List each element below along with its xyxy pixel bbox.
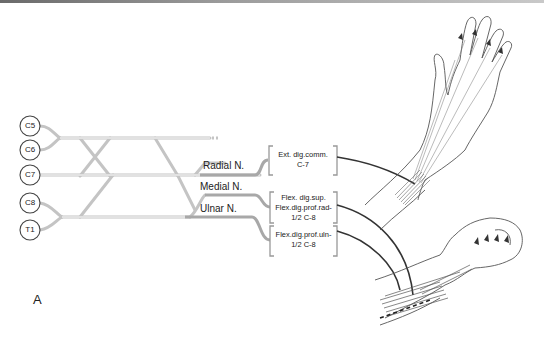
root-c7-label: C7: [20, 165, 40, 185]
medial-nerve-label: Medial N.: [200, 181, 242, 192]
muscle-box-line: 1/2 C-8: [273, 240, 334, 250]
muscle-box-line: Flex.dig.prof.rad-: [273, 203, 334, 213]
muscle-box-line: C-7: [273, 160, 333, 170]
root-c5-label: C5: [20, 116, 40, 136]
plexus-pathways: [40, 126, 260, 230]
ulnar-trunk: [185, 217, 270, 240]
finger-arrows: [458, 29, 503, 54]
ulnar-nerve-label: Ulnar N.: [200, 203, 237, 214]
brachial-plexus-diagram: [0, 0, 544, 338]
muscle-box-line: 1/2 C-8: [273, 213, 334, 223]
knuckle-arrows: [474, 234, 509, 245]
radial-nerve-label: Radial N.: [203, 160, 244, 171]
muscle-box-line: Ext. dig.comm.: [273, 150, 333, 160]
muscle-box-flex-dig-sup: Flex. dig.sup. Flex.dig.prof.rad- 1/2 C-…: [273, 193, 334, 223]
connector-curves: [337, 157, 415, 295]
panel-label: A: [33, 292, 42, 307]
muscle-box-ext-dig-comm: Ext. dig.comm. C-7: [273, 150, 333, 170]
muscle-box-flex-dig-prof-uln: Flex.dig.prof.uln- 1/2 C-8: [273, 230, 334, 250]
muscle-box-line: Flex.dig.prof.uln-: [273, 230, 334, 240]
muscle-box-line: Flex. dig.sup.: [273, 193, 334, 203]
root-c6-label: C6: [20, 140, 40, 160]
root-c8-label: C8: [20, 193, 40, 213]
root-t1-label: T1: [20, 220, 40, 240]
